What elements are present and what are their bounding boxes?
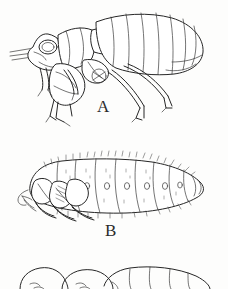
illustration-plate: A B [0,0,228,289]
figure-b-label: B [105,222,117,239]
plate-drawing [0,0,228,289]
figure-a-label: A [97,98,110,115]
figure-c-drawing [20,267,210,289]
figure-b-drawing [18,151,203,221]
